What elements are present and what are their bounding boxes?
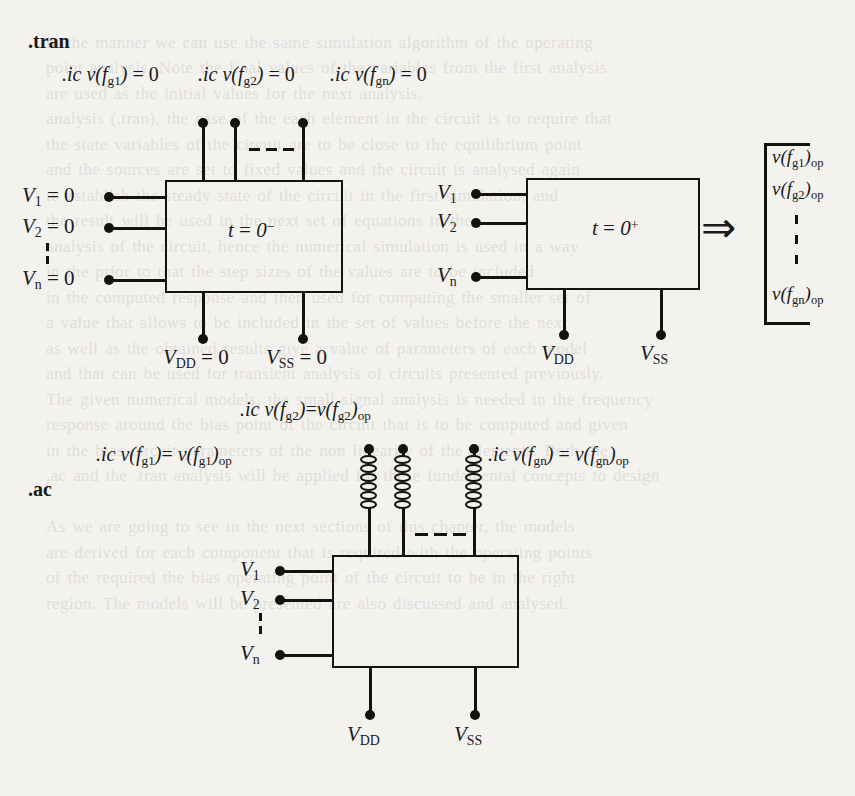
ac-input-label-2: V2 — [240, 586, 260, 613]
tran-right-input-lead-1 — [477, 193, 527, 196]
tran-left-block-label: t = 0− — [228, 218, 275, 243]
tran-left-top-lead-3 — [302, 124, 305, 182]
tran-left-input-ellipsis-1 — [46, 243, 49, 251]
tran-right-input-node-3 — [471, 272, 481, 282]
tran-left-input-lead-2 — [110, 227, 167, 230]
ac-vss-node — [470, 710, 480, 720]
result-item-g1: v(fg1)op — [772, 146, 823, 171]
ac-vdd-lead — [369, 667, 372, 714]
ac-vdd-label: VDD — [347, 722, 380, 749]
tran-left-top-node-3 — [298, 118, 308, 128]
ac-inductor-botlead-2 — [402, 508, 405, 557]
ac-top-ellipsis-dash-2 — [434, 533, 447, 536]
result-ellipsis-3 — [795, 255, 798, 264]
inductor-coil-2-icon — [394, 455, 411, 509]
ac-input-ellipsis-2 — [259, 626, 262, 634]
tran-left-input-label-1: V1 = 0 — [22, 183, 75, 210]
tran-left-input-lead-3 — [110, 279, 167, 282]
tran-left-input-ellipsis-2 — [46, 256, 49, 264]
result-ellipsis-2 — [795, 235, 798, 244]
tran-left-input-label-2: V2 = 0 — [22, 214, 75, 241]
tran-right-vss-node — [656, 330, 666, 340]
tran-right-input-label-2: V2 — [437, 209, 457, 236]
ac-inductor-botlead-3 — [473, 508, 476, 557]
inductor-coil-1-icon — [360, 455, 377, 509]
ac-input-lead-3 — [281, 654, 333, 657]
tran-left-input-lead-1 — [110, 196, 167, 199]
tran-right-block-label: t = 0+ — [592, 216, 639, 241]
ac-top-ellipsis-dash-1 — [415, 533, 428, 536]
tran-left-vss-node — [298, 334, 308, 344]
tran-right-vdd-node — [559, 330, 569, 340]
ac-input-ellipsis-1 — [259, 613, 262, 621]
result-item-gn: v(fgn)op — [772, 283, 823, 308]
ac-ic-equation-gn: .ic v(fgn) = v(fgn)op — [488, 443, 629, 469]
tran-right-input-label-1: V1 — [437, 180, 457, 207]
ac-top-ellipsis-dash-3 — [453, 533, 466, 536]
tran-left-vdd-label: VDD = 0 — [163, 345, 229, 372]
tran-left-input-node-2 — [104, 223, 114, 233]
ac-input-lead-2 — [281, 599, 333, 602]
result-ellipsis-1 — [795, 215, 798, 224]
ac-ic-equation-g2: .ic v(fg2)=v(fg2)op — [240, 398, 371, 424]
tran-left-input-node-3 — [104, 275, 114, 285]
tran-right-input-label-3: Vn — [437, 263, 457, 290]
ac-inductor-toplead-1 — [368, 450, 371, 456]
ac-vss-label: VSS — [454, 722, 482, 749]
tran-left-input-node-1 — [104, 192, 114, 202]
tran-right-input-lead-3 — [477, 276, 527, 279]
tran-left-top-ellipsis-dash-3 — [283, 148, 294, 151]
result-item-g2: v(fg2)op — [772, 178, 823, 203]
tran-left-top-node-1 — [198, 118, 208, 128]
tran-left-top-node-2 — [230, 118, 240, 128]
tran-right-vss-label: VSS — [640, 341, 668, 368]
tran-ic-equation-1: .ic v(fg1) = 0 — [62, 63, 159, 89]
inductor-coil-3-icon — [465, 455, 482, 509]
diagram-canvas: .tran .ic v(fg1) = 0 .ic v(fg2) = 0 .ic … — [0, 0, 855, 796]
ac-block — [332, 555, 519, 668]
ac-ic-equation-g1: .ic v(fg1)= v(fg1)op — [96, 443, 232, 469]
ac-input-node-1 — [275, 566, 285, 576]
ac-section-label: .ac — [28, 478, 52, 501]
tran-left-vdd-lead — [202, 292, 205, 338]
ac-vdd-node — [365, 710, 375, 720]
tran-left-vss-label: VSS = 0 — [266, 345, 327, 372]
tran-right-input-node-1 — [471, 189, 481, 199]
ac-inductor-toplead-2 — [402, 450, 405, 456]
tran-right-vdd-lead — [563, 289, 566, 334]
tran-section-label: .tran — [28, 30, 70, 53]
implies-arrow-icon: ⇒ — [701, 207, 736, 249]
tran-left-top-lead-2 — [234, 124, 237, 182]
tran-ic-equation-3: .ic v(fgn) = 0 — [330, 63, 427, 89]
tran-right-vdd-label: VDD — [541, 341, 574, 368]
tran-left-top-ellipsis-dash-2 — [266, 148, 277, 151]
tran-left-top-lead-1 — [202, 124, 205, 182]
tran-left-vdd-node — [198, 334, 208, 344]
ac-input-label-1: V1 — [240, 557, 260, 584]
ac-input-lead-1 — [281, 570, 333, 573]
ac-vss-lead — [474, 667, 477, 714]
ac-input-node-2 — [275, 595, 285, 605]
ac-inductor-botlead-1 — [368, 508, 371, 557]
tran-left-vss-lead — [302, 292, 305, 338]
ac-input-node-3 — [275, 650, 285, 660]
bracket-vertical-rule — [764, 143, 767, 325]
tran-ic-equation-2: .ic v(fg2) = 0 — [198, 63, 295, 89]
tran-left-input-label-3: Vn = 0 — [22, 266, 75, 293]
tran-right-input-node-2 — [471, 218, 481, 228]
ac-inductor-toplead-3 — [473, 450, 476, 456]
tran-left-top-ellipsis-dash-1 — [249, 148, 260, 151]
ac-input-label-3: Vn — [240, 641, 260, 668]
bracket-bottom-arm — [764, 322, 810, 325]
tran-right-input-lead-2 — [477, 222, 527, 225]
tran-right-vss-lead — [660, 289, 663, 334]
